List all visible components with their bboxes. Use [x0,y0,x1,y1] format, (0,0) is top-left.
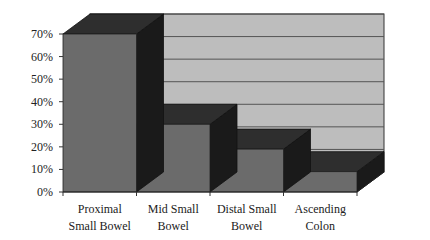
bar-side [137,14,164,192]
bar-chart: 0%10%20%30%40%50%60%70% ProximalSmall Bo… [0,0,430,240]
x-category-label: Bowel [158,219,190,233]
x-category-label: Mid Small [148,202,200,216]
y-tick-label: 40% [31,95,53,109]
x-category-label: Bowel [231,219,263,233]
y-tick-label: 50% [31,72,53,86]
x-category-label: Proximal [78,202,123,216]
x-category-label: Colon [306,219,335,233]
x-category-label: Small Bowel [69,219,132,233]
y-tick-label: 10% [31,162,53,176]
y-tick-label: 70% [31,27,53,41]
y-tick-label: 60% [31,50,53,64]
x-category-label: Distal Small [217,202,277,216]
y-tick-label: 20% [31,140,53,154]
x-category-label: Ascending [295,202,346,216]
y-tick-label: 0% [37,185,53,199]
y-tick-label: 30% [31,117,53,131]
bar-front [63,34,137,192]
bar [63,14,164,192]
y-axis: 0%10%20%30%40%50%60%70% [31,27,63,199]
